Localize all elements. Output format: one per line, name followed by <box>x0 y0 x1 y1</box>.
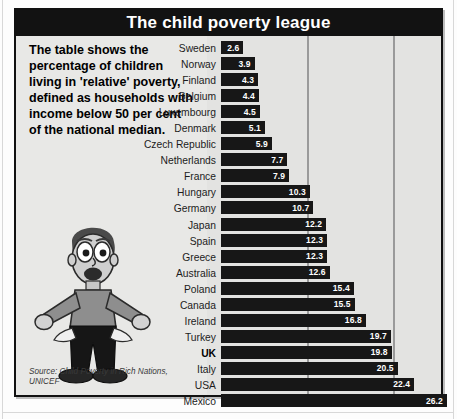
bar-luxembourg: Luxembourg4.5 <box>221 105 260 118</box>
bar-value-poland: 15.4 <box>333 283 354 293</box>
bar-row: Mexico26.2 <box>207 393 441 409</box>
bar-value-netherlands: 7.7 <box>271 155 287 165</box>
bar-value-turkey: 19.7 <box>370 331 391 341</box>
bar-row: Belgium4.4 <box>207 88 441 104</box>
bar-row: Poland15.4 <box>207 281 441 297</box>
bar-value-norway: 3.9 <box>238 59 254 69</box>
bar-row: Greece12.3 <box>207 249 441 265</box>
bar-value-germany: 10.7 <box>292 203 313 213</box>
bar-label-germany: Germany <box>174 201 221 216</box>
bar-hungary: Hungary10.3 <box>221 185 310 198</box>
bar-ireland: Ireland16.8 <box>221 314 366 327</box>
bar-poland: Poland15.4 <box>221 282 354 295</box>
bar-row: Finland4.3 <box>207 72 441 88</box>
bar-label-australia: Australia <box>176 266 221 281</box>
bar-greece: Greece12.3 <box>221 250 327 263</box>
bar-spain: Spain12.3 <box>221 234 327 247</box>
bar-label-poland: Poland <box>184 282 221 297</box>
bar-row: Turkey19.7 <box>207 329 441 345</box>
bar-value-france: 7.9 <box>273 171 289 181</box>
bar-germany: Germany10.7 <box>221 201 313 214</box>
bar-value-greece: 12.3 <box>306 251 327 261</box>
bar-value-finland: 4.3 <box>242 75 258 85</box>
bar-value-mexico: 26.2 <box>426 396 447 406</box>
bar-label-ireland: Ireland <box>185 314 221 329</box>
bar-turkey: Turkey19.7 <box>221 330 391 343</box>
bar-label-france: France <box>184 169 221 184</box>
bar-label-canada: Canada <box>180 298 221 313</box>
bar-row: Australia12.6 <box>207 265 441 281</box>
bar-value-japan: 12.2 <box>305 219 326 229</box>
bar-value-italy: 20.5 <box>377 363 398 373</box>
bar-row: France7.9 <box>207 168 441 184</box>
bar-row: Italy20.5 <box>207 361 441 377</box>
infographic-panel: The child poverty league The table shows… <box>14 8 443 397</box>
bar-label-netherlands: Netherlands <box>160 153 221 168</box>
bar-value-ireland: 16.8 <box>345 315 366 325</box>
bar-row: UK19.8 <box>207 345 441 361</box>
bar-row: Hungary10.3 <box>207 184 441 200</box>
bar-italy: Italy20.5 <box>221 362 398 375</box>
bar-label-italy: Italy <box>197 362 221 377</box>
bar-australia: Australia12.6 <box>221 266 330 279</box>
chart-plot-area: Sweden2.6Norway3.9Finland4.3Belgium4.4Lu… <box>207 36 441 395</box>
bar-value-denmark: 5.1 <box>249 123 265 133</box>
bar-value-hungary: 10.3 <box>289 187 310 197</box>
page-border-right <box>453 0 454 419</box>
bar-france: France7.9 <box>221 169 289 182</box>
bar-row: Norway3.9 <box>207 56 441 72</box>
page-title: The child poverty league <box>126 13 330 33</box>
bar-value-uk: 19.8 <box>371 347 392 357</box>
bar-norway: Norway3.9 <box>221 57 255 70</box>
bar-rows: Sweden2.6Norway3.9Finland4.3Belgium4.4Lu… <box>207 40 441 409</box>
bar-value-czech-republic: 5.9 <box>256 139 272 149</box>
bar-value-australia: 12.6 <box>309 267 330 277</box>
bar-label-spain: Spain <box>190 234 221 249</box>
bar-row: Czech Republic5.9 <box>207 136 441 152</box>
bar-row: Japan12.2 <box>207 217 441 233</box>
bar-belgium: Belgium4.4 <box>221 89 259 102</box>
bar-label-turkey: Turkey <box>185 330 221 345</box>
bar-value-sweden: 2.6 <box>227 43 243 53</box>
bar-label-japan: Japan <box>188 218 221 233</box>
bar-row: Denmark5.1 <box>207 120 441 136</box>
bar-sweden: Sweden2.6 <box>221 41 243 54</box>
bar-japan: Japan12.2 <box>221 218 326 231</box>
bar-label-norway: Norway <box>181 57 221 72</box>
bar-row: Ireland16.8 <box>207 313 441 329</box>
bar-row: Canada15.5 <box>207 297 441 313</box>
bar-finland: Finland4.3 <box>221 73 258 86</box>
bar-czech-republic: Czech Republic5.9 <box>221 137 272 150</box>
bar-row: Luxembourg4.5 <box>207 104 441 120</box>
bar-label-sweden: Sweden <box>179 41 221 56</box>
bar-netherlands: Netherlands7.7 <box>221 153 287 166</box>
bar-row: Sweden2.6 <box>207 40 441 56</box>
page-root: The child poverty league The table shows… <box>0 0 457 419</box>
description-text: The table shows the percentage of childr… <box>29 42 194 139</box>
bar-value-belgium: 4.4 <box>243 91 259 101</box>
bar-label-luxembourg: Luxembourg <box>159 105 221 120</box>
source-credit: Source: Child Poverty in Rich Nations, U… <box>29 367 199 387</box>
page-border-bottom <box>2 412 454 413</box>
title-bar: The child poverty league <box>16 10 441 36</box>
bar-row: Spain12.3 <box>207 233 441 249</box>
bar-value-usa: 22.4 <box>393 379 414 389</box>
bar-value-luxembourg: 4.5 <box>244 107 260 117</box>
page-border-left <box>2 0 3 419</box>
bar-chart: Sweden2.6Norway3.9Finland4.3Belgium4.4Lu… <box>207 36 441 395</box>
bar-value-canada: 15.5 <box>334 299 355 309</box>
bar-label-czech-republic: Czech Republic <box>144 137 221 152</box>
bar-usa: USA22.4 <box>221 378 414 391</box>
bar-label-belgium: Belgium <box>179 89 221 104</box>
bar-row: Germany10.7 <box>207 200 441 216</box>
bar-label-finland: Finland <box>182 73 221 88</box>
bar-label-greece: Greece <box>182 250 221 265</box>
cartoon-man-empty-pockets-illustration <box>28 216 156 386</box>
bar-label-denmark: Denmark <box>174 121 221 136</box>
bar-uk: UK19.8 <box>221 346 392 359</box>
bar-value-spain: 12.3 <box>306 235 327 245</box>
bar-row: USA22.4 <box>207 377 441 393</box>
bar-canada: Canada15.5 <box>221 298 355 311</box>
bar-row: Netherlands7.7 <box>207 152 441 168</box>
bar-label-uk: UK <box>201 346 221 361</box>
